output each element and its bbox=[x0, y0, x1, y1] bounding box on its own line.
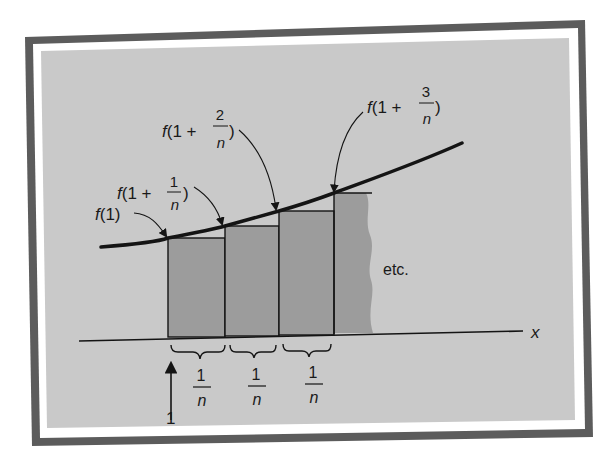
svg-text:n: n bbox=[217, 134, 225, 151]
label-f1: ff(1)(1) bbox=[95, 205, 121, 224]
svg-text:ff(1)(1): ff(1)(1) bbox=[95, 205, 121, 224]
svg-text:1: 1 bbox=[252, 366, 261, 383]
svg-text:f(1 +: f(1 + bbox=[117, 184, 152, 203]
svg-text:): ) bbox=[435, 98, 441, 117]
start-label: 1 bbox=[166, 409, 175, 428]
svg-text:n: n bbox=[423, 110, 431, 127]
svg-text:1: 1 bbox=[197, 367, 206, 384]
riemann-sum-diagram: x ff(1)(1) f(1 + 1 n ) f(1 + 2 n ) f(1 +… bbox=[0, 0, 609, 463]
svg-text:n: n bbox=[198, 392, 207, 409]
svg-text:n: n bbox=[253, 391, 262, 408]
svg-text:): ) bbox=[183, 184, 189, 203]
svg-text:1: 1 bbox=[170, 173, 178, 190]
svg-text:n: n bbox=[310, 389, 319, 406]
svg-text:f(1 +: f(1 + bbox=[367, 98, 402, 117]
rectangle-2 bbox=[225, 226, 279, 336]
x-axis-label: x bbox=[530, 323, 540, 342]
etc-label: etc. bbox=[383, 261, 409, 278]
svg-text:n: n bbox=[171, 196, 179, 213]
partial-region-etc bbox=[334, 193, 373, 333]
rectangle-1 bbox=[168, 238, 225, 337]
svg-text:2: 2 bbox=[216, 106, 224, 123]
rectangle-3 bbox=[279, 211, 334, 335]
svg-text:): ) bbox=[229, 122, 235, 141]
svg-text:f(1 +: f(1 + bbox=[162, 122, 197, 141]
svg-text:1: 1 bbox=[309, 364, 318, 381]
svg-text:3: 3 bbox=[422, 83, 430, 100]
